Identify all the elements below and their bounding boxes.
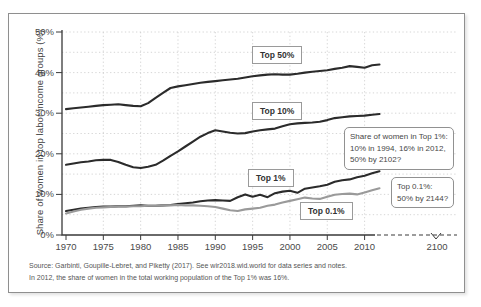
x-tick-label-1990: 1990 bbox=[205, 241, 226, 252]
series-line-top-10- bbox=[66, 114, 380, 168]
x-tick-label-1995: 1995 bbox=[242, 241, 263, 252]
series-label-top-0p1: Top 0.1% bbox=[300, 202, 353, 220]
axis-break-arrow bbox=[431, 233, 441, 239]
annotation-top01-projection: Top 0.1%: 50% by 2144? bbox=[391, 177, 454, 208]
x-tick-label-2000: 2000 bbox=[279, 241, 300, 252]
x-tick-label-1970: 1970 bbox=[55, 241, 76, 252]
annotation-top1-projection: Share of women in Top 1%: 10% in 1994, 1… bbox=[344, 127, 454, 170]
x-tick-label-1985: 1985 bbox=[167, 241, 188, 252]
y-axis-title: Share of women in top labor income group… bbox=[34, 28, 45, 238]
x-tick-label-2010: 2010 bbox=[354, 241, 375, 252]
series-label-top-1: Top 1% bbox=[248, 169, 294, 187]
annotation-top1-line3: 50% by 2102? bbox=[350, 154, 448, 166]
x-tick-label-2100: 2100 bbox=[426, 241, 447, 252]
series-line-top-50- bbox=[66, 65, 380, 110]
annotation-top1-line1: Share of women in Top 1%: bbox=[350, 131, 448, 143]
annotation-top1-line2: 10% in 1994, 16% in 2012, bbox=[350, 143, 448, 155]
series-label-top-50: Top 50% bbox=[252, 46, 302, 64]
x-tick-label-1975: 1975 bbox=[93, 241, 114, 252]
source-line-1: Source: Garbinti, Goupille-Lebret, and P… bbox=[29, 260, 347, 272]
source-line-2: In 2012, the share of women in the total… bbox=[29, 272, 347, 284]
annotation-top01-line2: 50% by 2144? bbox=[397, 193, 448, 205]
annotation-top01-line1: Top 0.1%: bbox=[397, 181, 448, 193]
figure: 1970197519801985199019952000200520102100… bbox=[0, 0, 481, 307]
series-label-top-10: Top 10% bbox=[252, 102, 302, 120]
x-tick-label-1980: 1980 bbox=[130, 241, 151, 252]
x-tick-label-2005: 2005 bbox=[317, 241, 338, 252]
source-note: Source: Garbinti, Goupille-Lebret, and P… bbox=[29, 260, 347, 283]
